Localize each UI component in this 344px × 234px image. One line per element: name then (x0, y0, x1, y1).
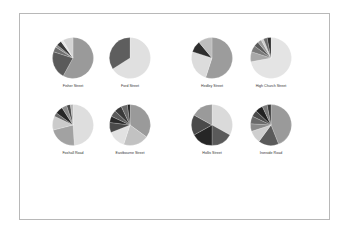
pie-graphic (52, 104, 94, 146)
pie-label: Ironside Road (241, 151, 301, 155)
pie-label: Hedley Street (182, 84, 242, 88)
pie-graphic (250, 37, 292, 79)
pie-chart-hollis-street: Hollis Street (182, 104, 242, 155)
pie-slice (73, 105, 93, 146)
pie-chart-hedley-street: Hedley Street (182, 37, 242, 88)
pie-label: High Church Street (241, 84, 301, 88)
pie-graphic (109, 104, 151, 146)
pie-chart-ironside-road: Ironside Road (241, 104, 301, 155)
pie-chart-foxhall-road: Foxhall Road (43, 104, 103, 155)
pie-label: Fisher Street (43, 84, 103, 88)
pie-chart-ford-street: Ford Street (100, 37, 160, 88)
pie-graphic (109, 37, 151, 79)
pie-chart-fisher-street: Fisher Street (43, 37, 103, 88)
pie-label: Hollis Street (182, 151, 242, 155)
pie-label: Eastbourne Street (100, 151, 160, 155)
pie-label: Foxhall Road (43, 151, 103, 155)
pie-chart-high-church-street: High Church Street (241, 37, 301, 88)
pie-graphic (250, 104, 292, 146)
pie-graphic (191, 37, 233, 79)
pie-label: Ford Street (100, 84, 160, 88)
pie-graphic (191, 104, 233, 146)
pie-chart-eastbourne-street: Eastbourne Street (100, 104, 160, 155)
pie-graphic (52, 37, 94, 79)
